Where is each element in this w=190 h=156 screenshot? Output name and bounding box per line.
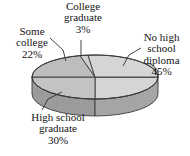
pie-chart-figure: College graduate 3% Some college 22% No … <box>0 0 190 156</box>
pie-label-high-school-graduate-value: 30% <box>13 135 103 146</box>
pie-label-high-school-graduate: High school graduate 30% <box>13 112 103 146</box>
pie-label-no-high-school-diploma: No high school diploma 45% <box>133 32 190 78</box>
pie-label-some-college: Some college 22% <box>1 26 63 60</box>
pie-label-some-college-value: 22% <box>1 49 63 60</box>
pie-label-no-high-school-diploma-value: 45% <box>133 66 190 77</box>
